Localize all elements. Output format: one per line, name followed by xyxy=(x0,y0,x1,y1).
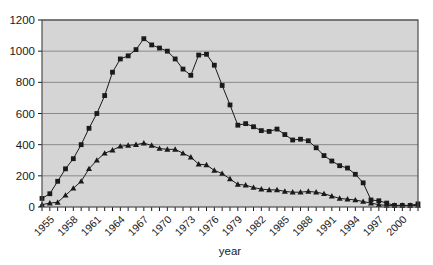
x-axis-tick-label: 1955 xyxy=(31,213,56,238)
x-axis-tick-label: 1994 xyxy=(337,213,362,238)
y-axis-tick-labels: 020040060080010001200 xyxy=(9,14,35,213)
data-point-marker xyxy=(353,172,358,177)
data-point-marker xyxy=(134,47,139,52)
x-axis-tick-label: 1976 xyxy=(196,213,221,238)
x-axis-tick-label: 1958 xyxy=(55,213,80,238)
y-axis-tick-label: 1200 xyxy=(9,14,35,26)
chart-container: 020040060080010001200 195519581961196419… xyxy=(0,0,433,265)
x-axis-tick-label: 2000 xyxy=(384,213,409,238)
data-point-marker xyxy=(94,111,99,116)
data-point-marker xyxy=(251,124,256,129)
data-point-marker xyxy=(306,138,311,143)
data-point-marker xyxy=(118,57,123,62)
data-point-marker xyxy=(220,83,225,88)
data-point-marker xyxy=(290,138,295,143)
x-axis-tick-label: 1967 xyxy=(125,213,150,238)
data-point-marker xyxy=(282,132,287,137)
data-point-marker xyxy=(149,43,154,48)
data-point-marker xyxy=(298,137,303,142)
data-point-marker xyxy=(55,179,60,184)
data-point-marker xyxy=(126,53,131,58)
y-axis-tick-label: 200 xyxy=(16,170,35,182)
data-point-marker xyxy=(181,67,186,72)
x-axis-tick-label: 1982 xyxy=(243,213,268,238)
x-axis-tick-label: 1961 xyxy=(78,213,103,238)
data-point-marker xyxy=(110,70,115,75)
data-point-marker xyxy=(87,126,92,131)
y-axis-tick-label: 400 xyxy=(16,139,35,151)
data-point-marker xyxy=(157,46,162,51)
data-point-marker xyxy=(79,142,84,147)
x-axis-tick-label: 1979 xyxy=(219,213,244,238)
x-axis-title: year xyxy=(219,245,242,257)
x-axis-tick-label: 1988 xyxy=(290,213,315,238)
x-axis-title-label: year xyxy=(219,245,242,257)
line-chart: 020040060080010001200 195519581961196419… xyxy=(0,0,433,265)
y-axis-tick-label: 600 xyxy=(16,108,35,120)
y-axis-tick-label: 0 xyxy=(29,201,35,213)
x-axis-tick-label: 1970 xyxy=(149,213,174,238)
data-point-marker xyxy=(212,63,217,68)
data-point-marker xyxy=(47,191,52,196)
y-axis-tick-label: 800 xyxy=(16,76,35,88)
data-point-marker xyxy=(228,103,233,108)
x-axis-tick-label: 1997 xyxy=(360,213,385,238)
data-point-marker xyxy=(337,163,342,168)
data-point-marker xyxy=(173,57,178,62)
data-point-marker xyxy=(204,52,209,57)
data-point-marker xyxy=(275,127,280,132)
data-point-marker xyxy=(141,36,146,41)
x-axis-ticks xyxy=(42,207,418,211)
data-point-marker xyxy=(267,129,272,134)
data-point-marker xyxy=(314,145,319,150)
x-axis-tick-labels: 1955195819611964196719701973197619791982… xyxy=(31,213,409,238)
data-point-marker xyxy=(345,166,350,171)
x-axis-tick-label: 1985 xyxy=(266,213,291,238)
data-point-marker xyxy=(322,153,327,158)
data-point-marker xyxy=(235,123,240,128)
x-axis-tick-label: 1991 xyxy=(313,213,338,238)
data-point-marker xyxy=(102,93,107,98)
data-point-marker xyxy=(329,159,334,164)
data-point-marker xyxy=(71,156,76,161)
data-point-marker xyxy=(63,166,68,171)
data-point-marker xyxy=(259,128,264,133)
data-point-marker xyxy=(165,49,170,54)
data-point-marker xyxy=(196,53,201,58)
data-point-marker xyxy=(243,121,248,126)
data-point-marker xyxy=(188,73,193,78)
x-axis-tick-label: 1964 xyxy=(102,213,127,238)
y-axis-tick-label: 1000 xyxy=(9,45,35,57)
data-point-marker xyxy=(361,180,366,185)
x-axis-tick-label: 1973 xyxy=(172,213,197,238)
